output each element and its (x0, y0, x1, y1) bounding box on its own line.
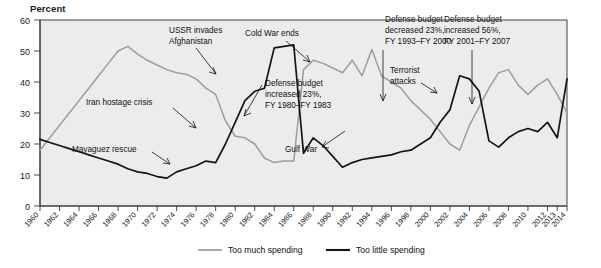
x-tick-label-2000: 2000 (413, 210, 431, 229)
annotation-ussr-label-line2: Afghanistan (169, 37, 213, 46)
x-tick-label-1998: 1998 (393, 210, 411, 229)
x-tick-label-1970: 1970 (120, 210, 138, 229)
chart-legend: Too much spending Too little spending (198, 245, 425, 255)
annotation-dec23-line2: decreased 23%, (385, 26, 444, 35)
y-tick-label-60: 60 (20, 16, 30, 26)
annotation-dec23-line3: FY 1993–FY 2000 (385, 37, 452, 46)
x-tick-label-1996: 1996 (374, 210, 392, 229)
chart-svg: 60 50 40 30 20 10 0 19601962196419661968… (0, 0, 601, 268)
x-axis-tick-labels: 1960196219641966196819701972197419761978… (22, 210, 567, 229)
y-tick-label-10: 10 (20, 171, 30, 181)
x-tick-label-1966: 1966 (81, 210, 99, 229)
x-tick-label-1964: 1964 (62, 210, 80, 229)
x-tick-label-1976: 1976 (179, 210, 197, 229)
x-tick-label-1984: 1984 (257, 210, 275, 229)
annotation-dec23-line1: Defense budget (385, 15, 444, 24)
annotation-ussr-label-line1: USSR invades (169, 26, 222, 35)
x-tick-label-2006: 2006 (471, 210, 489, 229)
x-tick-label-2002: 2002 (432, 210, 450, 229)
x-tick-label-1986: 1986 (276, 210, 294, 229)
x-tick-label-1962: 1962 (42, 210, 60, 229)
y-tick-label-50: 50 (20, 47, 30, 57)
annotation-terror-line1: Terrorist (390, 66, 420, 75)
annotation-inc23-line2: increased 23%, (265, 90, 321, 99)
x-tick-label-1990: 1990 (315, 210, 333, 229)
y-tick-label-0: 0 (25, 202, 30, 212)
x-tick-label-1974: 1974 (159, 210, 177, 229)
x-tick-label-1982: 1982 (237, 210, 255, 229)
y-tick-label-40: 40 (20, 78, 30, 88)
x-tick-label-1988: 1988 (296, 210, 314, 229)
x-tick-label-1968: 1968 (101, 210, 119, 229)
x-tick-label-2008: 2008 (491, 210, 509, 229)
x-tick-label-1992: 1992 (335, 210, 353, 229)
y-axis-ticks (34, 20, 40, 206)
x-tick-label-2010: 2010 (510, 210, 528, 229)
annotation-inc23-line3: FY 1980–FY 1983 (265, 101, 332, 110)
annotation-mayaguez-label: Mayaguez rescue (72, 145, 137, 154)
x-tick-label-2004: 2004 (452, 210, 470, 229)
x-tick-label-1972: 1972 (140, 210, 158, 229)
x-axis-ticks (40, 206, 567, 211)
x-tick-label-1978: 1978 (198, 210, 216, 229)
legend-label-too-little-spending: Too little spending (356, 245, 425, 255)
plot-area-background (40, 20, 567, 206)
annotation-inc56-line1: Defense budget (444, 15, 503, 24)
x-tick-label-1960: 1960 (22, 210, 40, 229)
x-tick-label-1980: 1980 (218, 210, 236, 229)
annotation-inc56-line3: FY 2001–FY 2007 (444, 37, 511, 46)
x-tick-label-1994: 1994 (354, 210, 372, 229)
y-tick-label-20: 20 (20, 140, 30, 150)
legend-label-too-much-spending: Too much spending (228, 245, 303, 255)
annotation-coldwar-label: Cold War ends (245, 29, 299, 38)
annotation-inc56-line2: increased 56%, (444, 26, 500, 35)
annotation-inc23-line1: Defense budget (265, 79, 324, 88)
chart-figure: Percent 60 50 40 30 20 10 0 196019621964… (0, 0, 601, 268)
annotation-iran-label: Iran hostage crisis (86, 98, 152, 107)
y-tick-label-30: 30 (20, 109, 30, 119)
annotation-terror-line2: attacks (390, 77, 416, 86)
annotation-gulfwar-label: Gulf War (285, 145, 317, 154)
